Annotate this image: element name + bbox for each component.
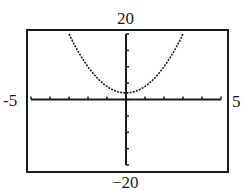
axes [31,34,221,165]
screen-frame [27,30,228,172]
graph-screen [0,0,244,190]
